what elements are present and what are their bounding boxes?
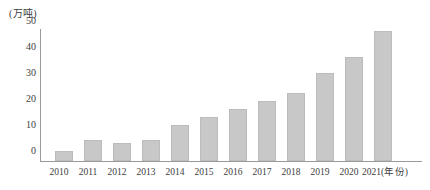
bar-slot xyxy=(253,31,282,161)
bar xyxy=(142,140,160,161)
x-axis-tick-label: 2019 xyxy=(304,166,336,178)
bar xyxy=(113,143,131,161)
x-axis-tick-label: 2016 xyxy=(217,166,249,178)
bar xyxy=(171,125,189,161)
y-axis-tick-label: 10 xyxy=(26,120,36,130)
x-axis-tick-label: 2020 xyxy=(333,166,365,178)
bar xyxy=(316,73,334,161)
x-axis-tick-label: 2013 xyxy=(130,166,162,178)
x-axis-year: 2013 xyxy=(137,167,156,177)
bar xyxy=(55,151,73,161)
y-axis-tick-label: 40 xyxy=(26,42,36,52)
x-axis-tick-label: 2012 xyxy=(101,166,133,178)
x-axis-tick-label: 2021(年份) xyxy=(362,166,408,178)
bar-slot xyxy=(224,31,253,161)
y-axis-tick-label: 30 xyxy=(26,68,36,78)
x-axis-year: 2016 xyxy=(224,167,243,177)
bar-slot xyxy=(340,31,369,161)
x-axis-tick-label: 2018 xyxy=(275,166,307,178)
x-axis-year: 2015 xyxy=(195,167,214,177)
bar-slot xyxy=(79,31,108,161)
plot-area: 01020304050 xyxy=(41,31,420,161)
x-axis-unit-label: (年份) xyxy=(381,167,408,177)
x-axis-tick-label: 2014 xyxy=(159,166,191,178)
bar xyxy=(200,117,218,161)
x-axis-year: 2010 xyxy=(50,167,69,177)
bar-slot xyxy=(311,31,340,161)
x-axis-year: 2017 xyxy=(253,167,272,177)
bar-slot xyxy=(137,31,166,161)
x-axis-year: 2021 xyxy=(362,167,381,177)
bar-slot xyxy=(282,31,311,161)
x-axis-year: 2012 xyxy=(108,167,127,177)
bar xyxy=(229,109,247,161)
bar xyxy=(84,140,102,161)
bar xyxy=(345,57,363,161)
x-axis-line xyxy=(40,161,422,162)
bar-slot xyxy=(108,31,137,161)
bar xyxy=(374,31,392,161)
x-axis-tick-label: 2010 xyxy=(43,166,75,178)
x-axis-year: 2020 xyxy=(340,167,359,177)
bar-slot xyxy=(50,31,79,161)
x-axis-year: 2014 xyxy=(166,167,185,177)
y-axis-tick-label: 20 xyxy=(26,94,36,104)
x-axis-year: 2011 xyxy=(79,167,98,177)
bar-slot xyxy=(369,31,398,161)
y-axis-tick-label: 50 xyxy=(26,16,36,26)
x-axis-tick-label: 2011 xyxy=(72,166,104,178)
bar xyxy=(287,93,305,161)
x-axis-year: 2019 xyxy=(311,167,330,177)
bar-slot xyxy=(195,31,224,161)
x-axis-tick-label: 2017 xyxy=(246,166,278,178)
bar xyxy=(258,101,276,161)
bar-chart: (万吨) 01020304050 20102011201220132014201… xyxy=(0,0,430,190)
x-axis-year: 2018 xyxy=(282,167,301,177)
x-axis-tick-label: 2015 xyxy=(188,166,220,178)
bar-slot xyxy=(166,31,195,161)
y-axis-tick-label: 0 xyxy=(31,146,36,156)
